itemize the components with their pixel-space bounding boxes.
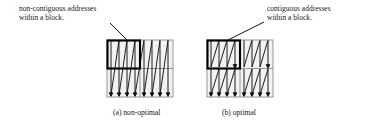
annotation-contiguous-line2: within a block. — [267, 13, 331, 22]
annotation-contiguous-line1: contiguous addresses — [267, 4, 331, 13]
annotation-non-contiguous-line1: non-contiguous addresses — [19, 4, 96, 13]
leader-line-non-contiguous — [110, 23, 127, 40]
caption-optimal: (b) optimal — [222, 108, 256, 118]
annotation-non-contiguous-line2: within a block. — [19, 13, 96, 22]
annotation-non-contiguous: non-contiguous addresses within a block. — [19, 4, 96, 22]
caption-non-optimal: (a) non-optimal — [113, 108, 160, 118]
diagram-non-optimal — [107, 40, 173, 97]
diagram-optimal — [207, 40, 273, 97]
leader-line-contiguous — [228, 22, 264, 40]
figure-container: non-contiguous addresses within a block.… — [0, 0, 366, 129]
annotation-contiguous: contiguous addresses within a block. — [267, 4, 331, 22]
